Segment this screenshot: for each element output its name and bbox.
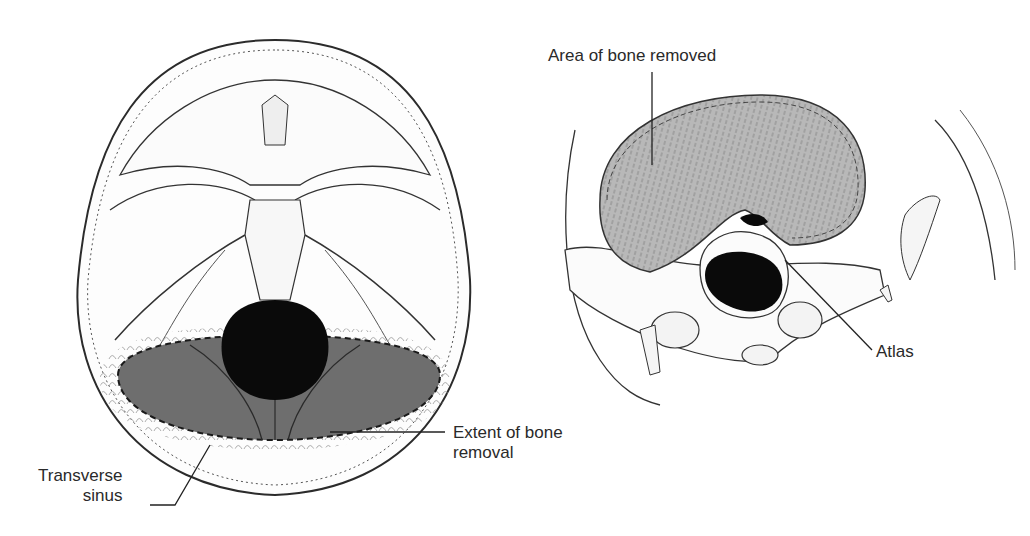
label-extent-line-1: Extent of bone bbox=[453, 423, 563, 443]
posterior-view-illustration bbox=[565, 72, 1015, 405]
label-sinus-line-1: Transverse bbox=[38, 466, 122, 486]
label-atlas: Atlas bbox=[876, 342, 914, 362]
label-sinus-line-2: sinus bbox=[38, 486, 122, 506]
label-extent-of-bone-removal: Extent of bone removal bbox=[453, 423, 563, 463]
label-area-of-bone-removed: Area of bone removed bbox=[548, 46, 716, 66]
medical-illustration: Area of bone removed Atlas Extent of bon… bbox=[0, 0, 1030, 536]
foramen-magnum bbox=[222, 300, 329, 400]
skull-base-illustration bbox=[77, 40, 470, 505]
label-extent-line-2: removal bbox=[453, 443, 563, 463]
label-transverse-sinus: Transverse sinus bbox=[38, 466, 122, 506]
